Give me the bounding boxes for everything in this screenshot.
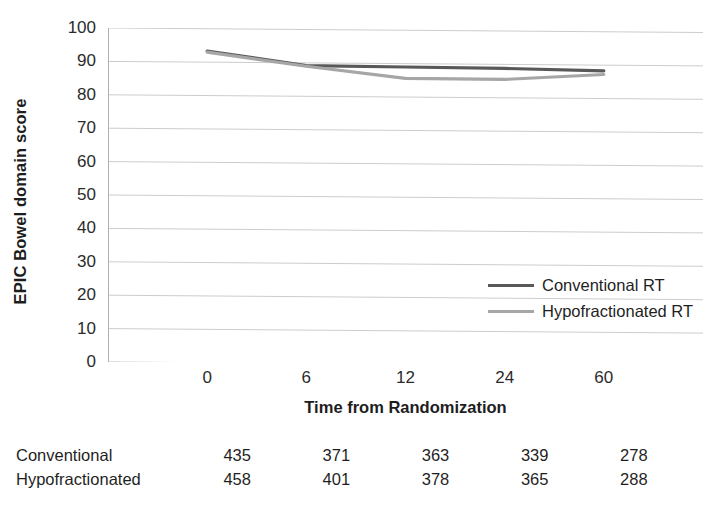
counts-cell: 363 xyxy=(422,446,450,465)
gridline xyxy=(108,128,703,133)
counts-cell: 339 xyxy=(521,446,549,465)
y-tick-label: 10 xyxy=(77,319,96,339)
gridline xyxy=(108,262,703,267)
counts-cell: 278 xyxy=(620,446,648,465)
y-tick-label: 100 xyxy=(68,18,96,38)
counts-table: Conventional435371363339278Hypofractiona… xyxy=(16,446,706,494)
legend-item: Conventional RT xyxy=(488,272,703,298)
y-tick-label: 0 xyxy=(87,352,96,372)
x-tick-label: 6 xyxy=(302,368,311,388)
gridline xyxy=(108,195,703,200)
legend-item: Hypofractionated RT xyxy=(488,298,703,324)
gridline xyxy=(108,95,703,100)
legend-line-swatch xyxy=(488,310,534,313)
counts-row-label: Hypofractionated xyxy=(16,470,141,489)
x-axis-tick-labels: 06122460 xyxy=(108,368,703,394)
y-tick-label: 70 xyxy=(77,118,96,138)
x-tick-label: 24 xyxy=(495,368,514,388)
y-tick-label: 50 xyxy=(77,185,96,205)
counts-cell: 288 xyxy=(620,470,648,489)
counts-cell: 401 xyxy=(323,470,351,489)
counts-cell: 458 xyxy=(223,470,251,489)
y-tick-label: 20 xyxy=(77,285,96,305)
gridline xyxy=(108,162,703,167)
chart-legend: Conventional RTHypofractionated RT xyxy=(488,272,703,324)
x-tick-label: 12 xyxy=(396,368,415,388)
y-axis-title: EPIC Bowel domain score xyxy=(2,36,40,366)
gridline xyxy=(108,28,703,33)
chart-figure: EPIC Bowel domain score 1009080706050403… xyxy=(0,0,720,525)
x-tick-label: 0 xyxy=(202,368,211,388)
y-axis-tick-labels: 1009080706050403020100 xyxy=(48,28,102,362)
y-tick-label: 30 xyxy=(77,252,96,272)
y-tick-label: 80 xyxy=(77,85,96,105)
counts-row: Hypofractionated458401378365288 xyxy=(16,470,706,494)
counts-cell: 371 xyxy=(323,446,351,465)
y-tick-label: 90 xyxy=(77,51,96,71)
counts-cell: 435 xyxy=(223,446,251,465)
y-axis-title-text: EPIC Bowel domain score xyxy=(12,98,31,304)
x-axis-title: Time from Randomization xyxy=(108,398,703,417)
gridline xyxy=(108,61,703,66)
counts-row: Conventional435371363339278 xyxy=(16,446,706,470)
legend-label: Hypofractionated RT xyxy=(542,302,693,321)
legend-label: Conventional RT xyxy=(542,276,665,295)
series-lines xyxy=(207,51,604,79)
gridline xyxy=(108,228,703,233)
y-tick-label: 60 xyxy=(77,152,96,172)
counts-row-label: Conventional xyxy=(16,446,112,465)
gridline xyxy=(108,329,703,334)
counts-cell: 365 xyxy=(521,470,549,489)
legend-line-swatch xyxy=(488,284,534,287)
x-tick-label: 60 xyxy=(594,368,613,388)
y-tick-label: 40 xyxy=(77,218,96,238)
counts-cell: 378 xyxy=(422,470,450,489)
